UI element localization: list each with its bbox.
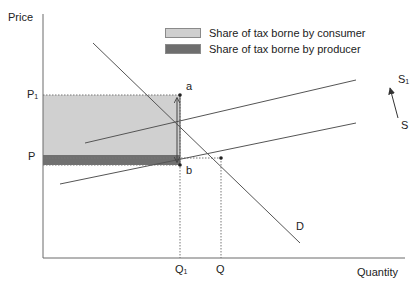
price-tick-p1: P1: [27, 89, 38, 100]
legend-swatch-consumer: [165, 28, 201, 38]
consumer-share-area: [43, 95, 180, 155]
supply-shift-arrow: [390, 88, 398, 118]
legend-item-consumer: Share of tax borne by consumer: [165, 27, 366, 39]
point-b: [178, 163, 182, 167]
equilibrium-point: [219, 156, 223, 160]
point-a-label: a: [186, 81, 192, 92]
legend-swatch-producer: [165, 44, 201, 54]
legend-label-producer: Share of tax borne by producer: [209, 43, 361, 55]
legend-item-producer: Share of tax borne by producer: [165, 43, 361, 55]
demand-label: D: [296, 221, 304, 232]
x-axis-label: Quantity: [357, 267, 398, 278]
quantity-tick-q1: Q1: [175, 264, 187, 275]
supply-label: S: [401, 120, 408, 131]
legend-label-consumer: Share of tax borne by consumer: [209, 27, 366, 39]
price-tick-p: P: [28, 151, 35, 162]
point-a: [178, 93, 182, 97]
quantity-tick-q: Q: [216, 264, 225, 275]
point-b-label: b: [186, 165, 192, 176]
y-axis-label: Price: [8, 12, 33, 23]
supply-shifted-label: S1: [398, 74, 409, 85]
